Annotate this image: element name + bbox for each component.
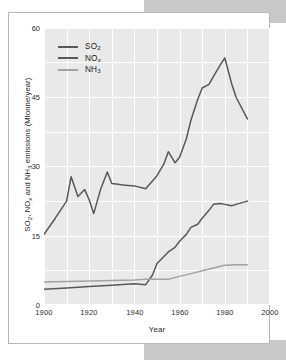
legend-entry-so2: SO2 bbox=[58, 41, 101, 53]
legend-entry-nox: NOx bbox=[58, 53, 101, 65]
legend-label-nh3: NH3 bbox=[85, 65, 101, 74]
series-line-nox bbox=[44, 201, 247, 289]
legend-swatch-so2 bbox=[58, 46, 78, 48]
series-line-nh3 bbox=[44, 265, 247, 282]
legend-entry-nh3: NH3 bbox=[58, 64, 101, 76]
x-tick-label-1920: 1920 bbox=[69, 308, 109, 317]
series-line-so2 bbox=[44, 58, 247, 234]
legend-label-nox: NOx bbox=[85, 54, 101, 63]
x-tick-label-1960: 1960 bbox=[160, 308, 200, 317]
y-tick-label-60: 60 bbox=[14, 24, 40, 33]
x-tick-label-2000: 2000 bbox=[250, 308, 286, 317]
legend-swatch-nh3 bbox=[58, 69, 78, 71]
legend-label-so2: SO2 bbox=[85, 42, 101, 51]
x-tick-label-1940: 1940 bbox=[115, 308, 155, 317]
chart-legend: SO2 NOx NH3 bbox=[58, 41, 101, 76]
x-axis-title: Year bbox=[44, 325, 270, 334]
y-axis-title: SO2, NOx and NH3 emissions (Mtonne/year) bbox=[23, 55, 32, 255]
x-tick-label-1980: 1980 bbox=[205, 308, 245, 317]
x-tick-label-1900: 1900 bbox=[24, 308, 64, 317]
chart-figure: 60 45 30 15 0 bbox=[0, 0, 286, 360]
legend-swatch-nox bbox=[58, 57, 78, 59]
